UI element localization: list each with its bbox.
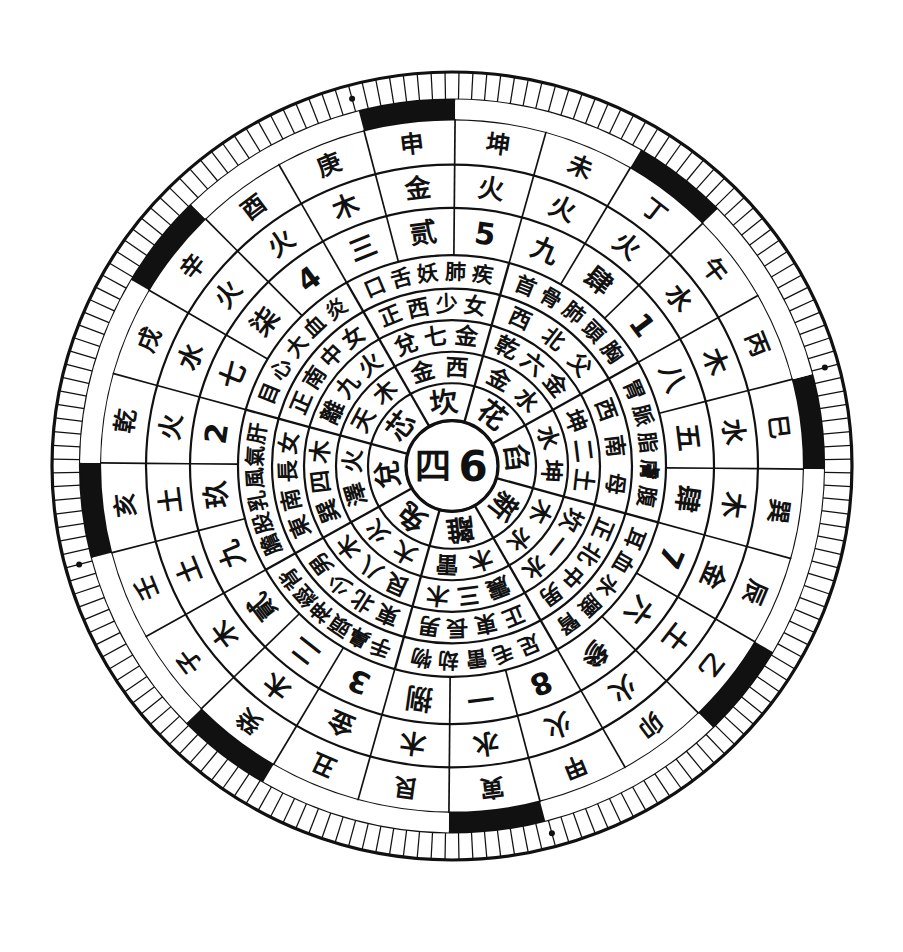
twenty-four-mountains-ring-divider bbox=[201, 677, 234, 709]
nine-star-number-ring-divider bbox=[605, 285, 639, 318]
alternating-black-white-band bbox=[80, 100, 824, 833]
degree-tick bbox=[270, 792, 283, 817]
nine-star-number-cell: 贰 bbox=[408, 216, 439, 250]
degree-tick bbox=[665, 766, 681, 789]
degree-tick bbox=[322, 812, 331, 838]
degree-tick bbox=[124, 240, 147, 256]
trigram-name-cell: 兌 bbox=[369, 458, 405, 490]
body-parts-ring-cell: 毛 bbox=[490, 639, 516, 668]
trigram-image-ring-cell: 木 bbox=[367, 375, 402, 410]
degree-tick bbox=[117, 666, 140, 681]
five-element-ring-cell: 火 bbox=[477, 172, 507, 205]
direction-family-ring-cell: 東 bbox=[284, 512, 315, 542]
nine-star-number-ring-divider bbox=[200, 397, 246, 410]
degree-tick bbox=[84, 609, 110, 620]
degree-tick bbox=[74, 585, 100, 594]
degree-tick bbox=[431, 73, 432, 101]
degree-tick bbox=[821, 418, 849, 421]
twenty-four-mountains-ring-divider bbox=[529, 758, 541, 802]
trigram-number-element-ring-divider bbox=[564, 497, 595, 505]
twenty-four-mountains-ring-divider bbox=[149, 290, 189, 313]
degree-tick bbox=[823, 432, 851, 434]
degree-tick bbox=[389, 828, 393, 855]
five-element-ring-cell: 木 bbox=[205, 615, 245, 655]
degree-tick bbox=[808, 573, 835, 581]
degree-tick bbox=[573, 812, 582, 838]
twenty-four-mountains-ring-divider bbox=[146, 614, 186, 636]
degree-tick bbox=[597, 103, 608, 128]
degree-tick bbox=[66, 364, 93, 371]
degree-tick bbox=[676, 759, 693, 781]
direction-family-ring-divider bbox=[404, 606, 413, 636]
degree-tick bbox=[89, 621, 114, 633]
degree-tick bbox=[686, 751, 704, 772]
degree-tick bbox=[794, 312, 820, 323]
nine-star-number-ring-inner-circle bbox=[238, 255, 666, 677]
body-parts-ring-cell: 舌 bbox=[388, 264, 414, 293]
degree-tick bbox=[632, 121, 646, 145]
degree-tick bbox=[715, 187, 735, 207]
degree-tick bbox=[211, 151, 228, 173]
nine-star-number-cell: 八 bbox=[653, 360, 692, 398]
degree-tick bbox=[417, 73, 419, 100]
body-parts-ring-cell: 腎 bbox=[552, 607, 583, 639]
cardinal-register-dot bbox=[76, 561, 82, 567]
degree-tick bbox=[150, 706, 171, 724]
degree-tick bbox=[190, 743, 208, 764]
trigram-image-ring-cell: 坤 bbox=[538, 459, 565, 483]
body-parts-ring-cell: 風 bbox=[243, 467, 268, 489]
nine-star-number-cell: 九 bbox=[527, 231, 564, 270]
five-element-ring-divider bbox=[706, 391, 749, 402]
nine-star-number-ring-divider bbox=[382, 669, 395, 715]
degree-tick bbox=[632, 786, 646, 810]
blackwhite-ring-inner-circle bbox=[100, 119, 804, 812]
nine-star-number-ring-divider bbox=[323, 241, 347, 282]
degree-tick bbox=[234, 773, 249, 796]
degree-tick bbox=[322, 93, 331, 119]
nine-star-number-ring-divider bbox=[319, 648, 343, 689]
degree-tick bbox=[814, 548, 841, 554]
five-element-ring-cell: 水 bbox=[659, 278, 699, 318]
degree-tick bbox=[190, 169, 208, 190]
twenty-four-mountains-ring-divider bbox=[607, 167, 630, 206]
trigram-image-ring-divider bbox=[533, 488, 564, 496]
degree-tick bbox=[655, 136, 670, 159]
degree-tick bbox=[764, 666, 787, 681]
degree-tick bbox=[706, 178, 725, 198]
body-parts-ring-cell: 膚 bbox=[637, 459, 661, 480]
degree-tick bbox=[84, 312, 110, 323]
nine-star-number-cell: 玖 bbox=[199, 479, 233, 510]
direction-family-ring-cell: 西 bbox=[405, 293, 432, 322]
degree-tick bbox=[96, 632, 121, 645]
degree-tick bbox=[757, 676, 780, 692]
degree-tick bbox=[69, 351, 96, 359]
body-parts-ring-cell: 足 bbox=[515, 629, 544, 659]
five-element-ring-cell: 土 bbox=[170, 553, 208, 588]
twenty-four-mountains-ring-cell: 丁 bbox=[636, 192, 672, 229]
center-chinese-numeral: 四 bbox=[415, 446, 451, 487]
body-parts-ring-cell: 肺 bbox=[445, 260, 466, 284]
degree-tick-scale bbox=[52, 72, 852, 860]
degree-tick bbox=[223, 766, 239, 789]
degree-tick bbox=[771, 655, 795, 669]
direction-family-ring-cell: 西 bbox=[590, 395, 621, 424]
nine-star-number-ring-divider bbox=[509, 217, 522, 263]
five-element-ring-cell: 金 bbox=[402, 172, 433, 205]
trigram-name-cell: 新 bbox=[482, 484, 525, 526]
direction-family-ring-cell: 長 bbox=[445, 615, 469, 641]
twenty-four-mountains-ring-cell: 卯 bbox=[632, 706, 668, 743]
degree-tick bbox=[817, 536, 844, 541]
twenty-four-mountains-ring-cell: 申 bbox=[398, 129, 425, 160]
degree-tick bbox=[53, 485, 81, 486]
degree-tick bbox=[283, 798, 295, 823]
nine-star-number-ring-divider bbox=[226, 335, 267, 359]
body-parts-ring-cell: 脂 bbox=[634, 430, 660, 454]
direction-family-ring-divider bbox=[363, 312, 379, 339]
trigram-image-ring-cell: 澤 bbox=[341, 480, 373, 510]
nine-star-number-ring-divider bbox=[658, 522, 704, 535]
twenty-four-mountains-ring-cell: 乾 bbox=[111, 407, 142, 435]
trigram-number-element-ring-cell: 坤 bbox=[560, 406, 592, 437]
degree-tick bbox=[59, 391, 86, 396]
degree-tick bbox=[169, 725, 189, 745]
direction-family-ring-divider bbox=[492, 295, 501, 325]
